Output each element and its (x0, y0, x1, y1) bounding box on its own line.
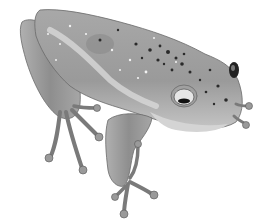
toe-pad-icon (112, 194, 119, 201)
front-leg (106, 114, 158, 218)
toe-pad-icon (135, 141, 142, 148)
frog-eye (171, 85, 197, 107)
frog-eye-far (229, 62, 239, 78)
toe-pad-icon (45, 154, 53, 162)
toe-pad-icon (246, 103, 253, 110)
frog-drawing (0, 0, 255, 222)
toe-pad-icon (95, 133, 103, 141)
frog-illustration (0, 0, 255, 222)
toe-pad-icon (243, 122, 250, 129)
toe-pad-icon (79, 166, 87, 174)
toe-pad-icon (120, 210, 128, 218)
toe-pad-icon (94, 105, 101, 112)
toe-pad-icon (150, 191, 158, 199)
